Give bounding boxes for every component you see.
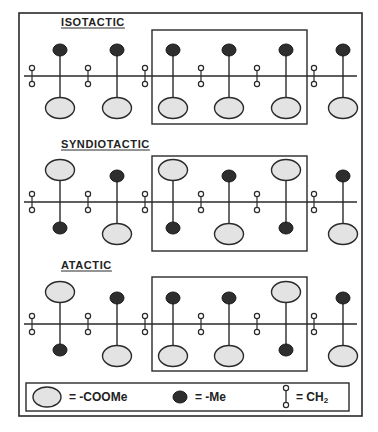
methyl-group-icon	[110, 170, 124, 182]
panel-title: ATACTIC	[61, 259, 112, 271]
stereocenter	[215, 292, 244, 367]
methyl-group-icon	[336, 170, 350, 182]
stereocenter	[103, 170, 132, 245]
stereocenter	[329, 170, 358, 245]
coome-group-icon	[329, 224, 358, 245]
me-legend-label: = -Me	[195, 390, 226, 404]
coome-group-icon	[329, 346, 358, 367]
coome-group-icon	[159, 98, 188, 119]
coome-group-icon	[272, 282, 301, 303]
panels: ISOTACTICSYNDIOTACTICATACTIC	[24, 16, 358, 371]
coome-group-icon	[103, 224, 132, 245]
stereocenter	[329, 292, 358, 367]
stereocenter	[215, 44, 244, 119]
coome-group-icon	[46, 282, 75, 303]
stereocenter	[103, 44, 132, 119]
stereocenter	[272, 44, 301, 119]
legend: = -COOMe = -Me = CH2	[26, 383, 349, 411]
coome-group-icon	[329, 98, 358, 119]
methyl-group-icon	[110, 292, 124, 304]
stereocenter	[272, 282, 301, 357]
outer-frame	[19, 13, 362, 416]
coome-group-icon	[215, 346, 244, 367]
methyl-group-icon	[53, 222, 67, 234]
methyl-group-icon	[279, 44, 293, 56]
coome-group-icon	[159, 346, 188, 367]
methyl-group-icon	[222, 170, 236, 182]
stereocenter	[46, 160, 75, 235]
methyl-group-icon	[110, 44, 124, 56]
coome-group-icon	[215, 224, 244, 245]
stereocenter	[272, 160, 301, 235]
stereocenter	[159, 160, 188, 235]
coome-group-icon	[159, 160, 188, 181]
ch2-legend-icon	[283, 385, 288, 407]
stereocenter	[46, 44, 75, 119]
coome-group-icon	[103, 98, 132, 119]
coome-group-icon	[215, 98, 244, 119]
stereocenter	[329, 44, 358, 119]
coome-group-icon	[272, 98, 301, 119]
stereocenter	[46, 282, 75, 357]
coome-group-icon	[272, 160, 301, 181]
coome-group-icon	[46, 98, 75, 119]
methyl-group-icon	[166, 292, 180, 304]
methyl-group-icon	[279, 344, 293, 356]
methyl-group-icon	[279, 222, 293, 234]
methyl-group-icon	[336, 292, 350, 304]
methyl-group-icon	[166, 222, 180, 234]
coome-legend-label: = -COOMe	[69, 390, 128, 404]
panel-title: ISOTACTIC	[61, 16, 125, 28]
methyl-group-icon	[336, 44, 350, 56]
coome-legend-icon	[33, 387, 61, 407]
coome-group-icon	[103, 346, 132, 367]
coome-group-icon	[46, 160, 75, 181]
ch2-legend-label: = CH2	[296, 390, 329, 405]
tacticity-diagram: ISOTACTICSYNDIOTACTICATACTIC = -COOMe = …	[0, 0, 378, 432]
panel-syndiotactic: SYNDIOTACTIC	[24, 138, 358, 251]
panel-title: SYNDIOTACTIC	[61, 138, 150, 150]
methyl-group-icon	[53, 344, 67, 356]
stereocenter	[215, 170, 244, 245]
methyl-group-icon	[222, 44, 236, 56]
methyl-group-icon	[222, 292, 236, 304]
panel-atactic: ATACTIC	[24, 259, 358, 371]
stereocenter	[159, 44, 188, 119]
me-legend-icon	[173, 391, 187, 403]
methyl-group-icon	[166, 44, 180, 56]
stereocenter	[159, 292, 188, 367]
panel-isotactic: ISOTACTIC	[24, 16, 358, 124]
methyl-group-icon	[53, 44, 67, 56]
stereocenter	[103, 292, 132, 367]
